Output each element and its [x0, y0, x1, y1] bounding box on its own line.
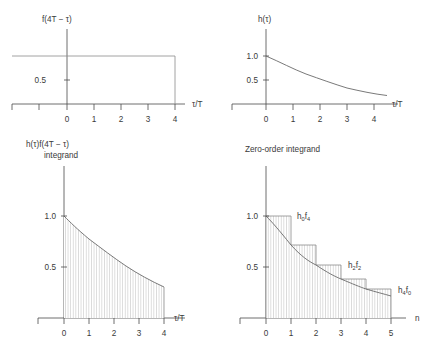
- svg-text:h2f2: h2f2: [348, 261, 361, 271]
- bottom-left-xtick-label-3: 3: [137, 329, 142, 338]
- top-right-xtick-label-0: 0: [264, 115, 269, 124]
- annotation-h2f2-sub-f: 2: [358, 265, 361, 271]
- top-left-xtick-label-3: 3: [146, 115, 151, 124]
- bottom-right-xlabel: n: [415, 314, 420, 323]
- bar-n0: [266, 216, 291, 318]
- panel-top-left: f(4T − τ) 0.5 0 1 2 3 4 τ/T: [12, 15, 203, 124]
- bottom-right-ytick-label-0.5: 0.5: [247, 263, 259, 272]
- panel-bottom-left: h(τ)f(4T − τ) integrand 1.0 0.5 0 1 2 3 …: [26, 140, 185, 338]
- top-left-xtick-label-1: 1: [92, 115, 97, 124]
- svg-text:h4f0: h4f0: [398, 286, 411, 296]
- bottom-right-xtick-label-5: 5: [389, 329, 394, 338]
- top-right-decay-curve: [266, 56, 387, 96]
- annotation-h4f0: h4f0: [398, 286, 411, 296]
- bottom-right-xtick-label-4: 4: [364, 329, 369, 338]
- panel-top-right: h(τ) 1.0 0.5 0 1 2 3 4 τ/T: [232, 15, 403, 124]
- top-right-xtick-label-1: 1: [291, 115, 296, 124]
- bottom-left-xtick-label-0: 0: [62, 329, 67, 338]
- top-left-ytick-label-0.5: 0.5: [35, 76, 47, 85]
- top-right-xlabel: τ/T: [392, 100, 403, 109]
- bottom-left-title-line1: h(τ)f(4T − τ): [26, 140, 69, 149]
- top-left-xtick-label-2: 2: [119, 115, 124, 124]
- annotation-h2f2: h2f2: [348, 261, 361, 271]
- bar-n4: [366, 289, 391, 318]
- figure-canvas: f(4T − τ) 0.5 0 1 2 3 4 τ/T: [0, 0, 443, 353]
- bottom-right-xtick-label-3: 3: [339, 329, 344, 338]
- annotation-h4f0-sub-f: 0: [408, 290, 411, 296]
- bottom-left-ytick-label-1.0: 1.0: [45, 212, 57, 221]
- annotation-h0f4: h0f4: [297, 212, 310, 222]
- panel-bottom-right: Zero-order integrand 1.0 0.5: [240, 145, 420, 338]
- bottom-left-ytick-label-0.5: 0.5: [45, 263, 57, 272]
- top-right-xtick-label-4: 4: [372, 115, 377, 124]
- top-right-xtick-label-3: 3: [345, 115, 350, 124]
- bottom-right-title: Zero-order integrand: [245, 145, 321, 154]
- bottom-left-title-line2: integrand: [44, 151, 79, 160]
- bottom-right-ytick-label-1.0: 1.0: [247, 212, 259, 221]
- top-right-xtick-label-2: 2: [318, 115, 323, 124]
- top-right-ytick-label-0.5: 0.5: [247, 76, 259, 85]
- top-left-xlabel: τ/T: [192, 100, 203, 109]
- top-right-ylabel: h(τ): [258, 15, 272, 24]
- bottom-left-integrand-area: [64, 216, 164, 318]
- bottom-left-xlabel: τ/T: [174, 314, 185, 323]
- bottom-right-xtick-label-0: 0: [264, 329, 269, 338]
- figure-sheet: f(4T − τ) 0.5 0 1 2 3 4 τ/T: [0, 0, 443, 353]
- bottom-left-xtick-label-1: 1: [87, 329, 92, 338]
- svg-text:h0f4: h0f4: [297, 212, 310, 222]
- annotation-h0f4-sub-f: 4: [307, 216, 310, 222]
- bottom-right-bars: [266, 216, 391, 318]
- bar-n1: [291, 245, 316, 318]
- bar-n3: [341, 279, 366, 318]
- bottom-left-xtick-label-2: 2: [112, 329, 117, 338]
- bottom-right-xtick-label-2: 2: [314, 329, 319, 338]
- top-left-xtick-label-4: 4: [173, 115, 178, 124]
- bottom-right-xtick-label-1: 1: [289, 329, 294, 338]
- top-left-xtick-label-0: 0: [65, 115, 70, 124]
- bottom-left-xtick-label-4: 4: [162, 329, 167, 338]
- top-right-ytick-label-1.0: 1.0: [247, 52, 259, 61]
- top-left-ylabel: f(4T − τ): [42, 15, 72, 24]
